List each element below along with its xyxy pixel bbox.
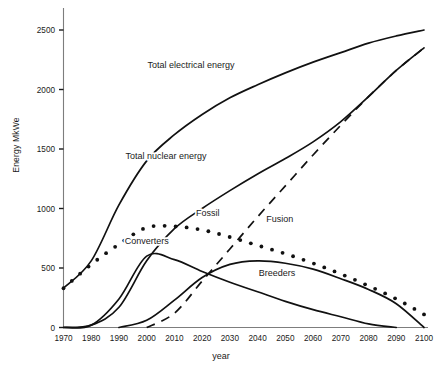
series-dot [413,307,417,311]
series-dot [302,258,306,262]
series-dot [363,282,367,286]
y-tick-label: 500 [41,264,55,273]
series-dot [228,235,232,239]
x-tick-label: 2080 [359,334,378,343]
series-dot [87,265,91,269]
series-dot [163,224,167,228]
series-label: Breeders [259,268,296,278]
series-label: Fusion [266,214,293,224]
y-axis-label: Energy MkWe [11,93,21,197]
series-dot [403,302,407,306]
series-dot [185,226,189,230]
x-tick-label: 1990 [110,334,129,343]
series-total-nuclear-energy [64,48,425,328]
x-tick-label: 2000 [138,334,157,343]
chart-figure: Energy MkWe year 05001000150020002500 19… [0,0,442,380]
x-tick-label: 2040 [249,334,268,343]
x-tick-group: 1970198019902000201020202030204020502060… [54,334,433,343]
series-dot [206,229,210,233]
series-dot [260,245,264,249]
series-line [147,48,424,328]
x-tick-label: 2100 [415,334,434,343]
x-tick-label: 1970 [54,334,73,343]
series-fusion [147,48,424,328]
x-tick-label: 2070 [332,334,351,343]
chart-plot-area: 05001000150020002500 1970198019902000201… [0,0,442,380]
series-line [64,48,425,328]
y-tick-label: 2500 [37,26,56,35]
series-label: Fossil [196,208,220,218]
y-tick-label: 2000 [37,86,56,95]
x-tick-label: 2050 [276,334,295,343]
x-tick-label: 2060 [304,334,323,343]
x-axis: 1970198019902000201020202030204020502060… [54,328,433,344]
series-dot [291,254,295,258]
x-axis-label: year [0,351,442,361]
series-label: Converters [125,236,170,246]
y-axis: 05001000150020002500 [37,8,64,333]
series-line [64,30,425,288]
series-dot [249,241,253,245]
series-dot [62,286,66,290]
data-series-group [62,30,426,328]
series-dot [217,232,221,236]
series-dot [373,287,377,291]
series-dot [333,270,337,274]
x-tick-label: 2030 [221,334,240,343]
series-dot [95,258,99,262]
series-dot [270,248,274,252]
y-tick-group: 05001000150020002500 [37,26,64,333]
series-dot [70,279,74,283]
series-dot [174,225,178,229]
series-dot [113,245,117,249]
series-dot [152,224,156,228]
series-total-electrical-energy [64,30,425,288]
y-tick-label: 0 [50,324,55,333]
series-dot [383,292,387,296]
series-dot [281,251,285,255]
series-annotation-group: Total electrical energyTotal electrical … [125,60,296,278]
series-dot [393,296,397,300]
series-dot [422,313,426,317]
x-tick-label: 1980 [82,334,101,343]
series-dot [196,227,200,231]
series-dot [104,251,108,255]
series-label: Total nuclear energy [126,151,208,161]
series-dot [343,274,347,278]
series-dot [312,262,316,266]
series-label: Total electrical energy [148,60,236,70]
series-dot [322,266,326,270]
x-tick-label: 2090 [387,334,406,343]
y-tick-label: 1000 [37,205,56,214]
series-dot [353,278,357,282]
y-tick-label: 1500 [37,145,56,154]
x-tick-label: 2020 [193,334,212,343]
series-dot [141,227,145,231]
x-tick-label: 2010 [165,334,184,343]
series-dot [78,272,82,276]
